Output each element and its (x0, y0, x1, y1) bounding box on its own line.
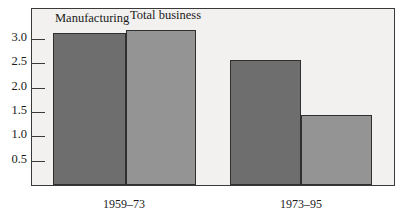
y-axis-tick-label: 1.5 (11, 104, 27, 117)
bar-total-business-1973–95 (301, 115, 372, 185)
y-axis-tick-label: 0.5 (11, 153, 27, 166)
y-axis-tick-label: 2.5 (11, 55, 27, 68)
x-axis-label-0: 1959–73 (103, 198, 145, 210)
y-axis-tick-label: 2.0 (11, 80, 27, 93)
y-axis-tick: 2.0 (31, 88, 45, 89)
y-axis-tick: 1.5 (31, 112, 45, 113)
bar-total-business-1959–73 (126, 30, 196, 185)
y-axis-tick-label: 3.0 (11, 31, 27, 44)
bar-manufacturing-1959–73 (53, 33, 126, 185)
bar-manufacturing-1973–95 (230, 60, 301, 185)
legend-label-1: Total business (130, 9, 201, 22)
bar-chart: 0.51.01.52.02.53.0 ManufacturingTotal bu… (0, 0, 411, 221)
y-axis-tick: 3.0 (31, 39, 45, 40)
y-axis-tick: 1.0 (31, 136, 45, 137)
legend-label-0: Manufacturing (55, 12, 129, 25)
x-axis-label-1: 1973–95 (280, 198, 322, 210)
y-axis-tick-label: 1.0 (11, 128, 27, 141)
y-axis-tick: 2.5 (31, 63, 45, 64)
y-axis-tick: 0.5 (31, 161, 45, 162)
